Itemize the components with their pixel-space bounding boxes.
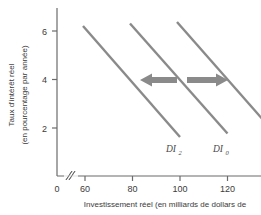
- x-tick-label-120: 120: [220, 184, 235, 194]
- x-tick-label-100: 100: [172, 184, 187, 194]
- y-tick-label-6: 6: [42, 27, 47, 37]
- y-axis-ticks: [52, 31, 57, 128]
- origin-label: 0: [54, 184, 59, 194]
- y-tick-label-4: 4: [42, 75, 47, 85]
- x-axis-title: Investissement réel (en milliards de dol…: [84, 200, 247, 209]
- leftward-shift-arrow: [140, 74, 177, 87]
- axes-group: [57, 8, 261, 176]
- y-tick-label-2: 2: [42, 124, 47, 134]
- x-axis-break-mark: [64, 171, 78, 180]
- curve-label-di2: DI 2: [165, 144, 183, 156]
- x-tick-label-80: 80: [127, 184, 137, 194]
- curve-label-di0: DI 0: [212, 144, 230, 156]
- curve-label-di0-subscript: 0: [226, 149, 230, 156]
- curve-label-di2-subscript: 2: [179, 149, 183, 156]
- x-tick-label-60: 60: [80, 184, 90, 194]
- chart-canvas: 6 4 2 0 60 80 100 120 Investissement rée…: [0, 0, 261, 215]
- curve-label-di2-text: DI: [165, 144, 177, 154]
- y-axis-title-line1: Taux d'intérêt réel: [7, 63, 16, 126]
- curve-label-di0-text: DI: [212, 144, 224, 154]
- x-axis-ticks: [85, 176, 228, 181]
- investment-demand-chart: 6 4 2 0 60 80 100 120 Investissement rée…: [0, 0, 261, 215]
- y-axis-title-line2: (en pourcentage par année): [20, 45, 29, 145]
- rightward-shift-arrow: [187, 74, 228, 87]
